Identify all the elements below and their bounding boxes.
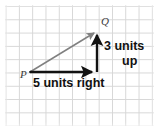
- figure-canvas: P Q 5 units right 3 units up: [0, 0, 159, 131]
- horizontal-run-label: 5 units right: [33, 77, 105, 90]
- resultant-vector-arrow: [30, 33, 94, 72]
- vertical-rise-label-line2: up: [122, 55, 137, 68]
- point-p-label: P: [20, 69, 27, 80]
- vertical-rise-label-line1: 3 units: [104, 40, 144, 53]
- point-q-label: Q: [101, 16, 109, 27]
- point-p-dot: [29, 71, 31, 73]
